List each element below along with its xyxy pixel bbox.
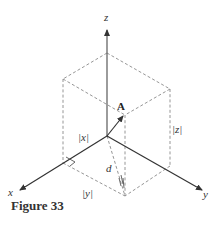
figure-caption: Figure 33 (11, 198, 64, 214)
figure-diagram: z x y A |x| |y| |z| d (0, 0, 219, 228)
abs-x-label: |x| (78, 131, 89, 143)
y-axis-label: y (202, 188, 208, 200)
box-top-front-left-edge (63, 79, 125, 115)
x-axis-label: x (7, 186, 13, 198)
box-bottom-right-edge (125, 166, 170, 196)
vector-a-arrow (107, 116, 123, 136)
box-top-back-right-edge (107, 53, 170, 89)
z-axis-label: z (103, 11, 109, 23)
point-a-label: A (117, 100, 125, 112)
abs-z-label: |z| (172, 123, 182, 135)
box-top-front-right-edge (125, 89, 170, 115)
abs-y-label: |y| (82, 187, 93, 199)
y-axis (107, 136, 202, 190)
box-top-back-left-edge (63, 53, 107, 79)
x-axis (20, 136, 107, 190)
box-bottom-left-edge (63, 163, 125, 196)
distance-d-label: d (106, 162, 112, 174)
